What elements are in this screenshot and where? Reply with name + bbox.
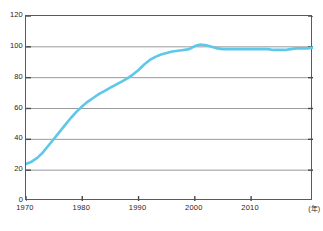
x-tick-label: 1970 [16,203,34,212]
y-tick-label: 120 [1,11,23,19]
y-tick-label: 100 [1,42,23,50]
plot-area [25,15,312,200]
y-tick-label: 40 [1,134,23,142]
chart-title-cropped [0,0,323,9]
x-axis-labels: 19701980199020002010 [0,203,323,217]
y-tick-label: 60 [1,104,23,112]
y-tick-label: 20 [1,165,23,173]
chart-screenshot: 020406080100120 19701980199020002010 (年) [0,0,323,231]
x-axis-unit-label: (年) [308,204,320,213]
chart-plot-svg [26,16,313,201]
x-tick-label: 1990 [129,203,147,212]
x-tick-label: 2000 [185,203,203,212]
x-tick-label: 1980 [73,203,91,212]
y-axis-labels: 020406080100120 [0,0,23,231]
series-line-0 [26,45,313,164]
y-tick-label: 80 [1,73,23,81]
x-tick-label: 2010 [241,203,259,212]
